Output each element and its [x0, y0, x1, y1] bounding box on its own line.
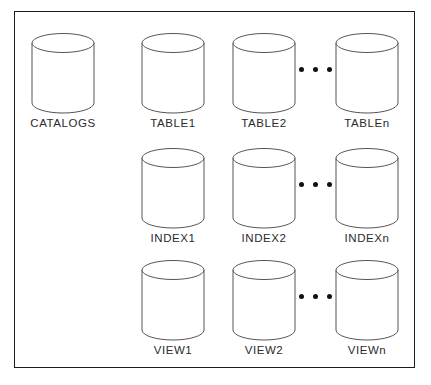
node-indexn[interactable]: INDEXn	[335, 148, 399, 228]
node-label: TABLE2	[210, 117, 318, 129]
cylinder-icon	[335, 260, 399, 340]
cylinder-icon	[232, 260, 296, 340]
cylinder-icon	[141, 260, 205, 340]
node-label: INDEXn	[313, 232, 421, 244]
node-tablen[interactable]: TABLEn	[335, 33, 399, 113]
node-table2[interactable]: TABLE2	[232, 33, 296, 113]
ellipsis-dot	[327, 67, 332, 72]
cylinder-icon	[335, 33, 399, 113]
ellipsis-dot	[299, 67, 304, 72]
ellipsis-row-indexes	[293, 182, 337, 187]
node-label: VIEW2	[210, 344, 318, 356]
ellipsis-dot	[327, 294, 332, 299]
ellipsis-row-views	[293, 294, 337, 299]
ellipsis-dot	[313, 67, 318, 72]
cylinder-icon	[31, 33, 95, 113]
ellipsis-dot	[299, 182, 304, 187]
node-table1[interactable]: TABLE1	[141, 33, 205, 113]
cylinder-icon	[141, 33, 205, 113]
node-view2[interactable]: VIEW2	[232, 260, 296, 340]
cylinder-icon	[141, 148, 205, 228]
cylinder-icon	[335, 148, 399, 228]
node-label: TABLEn	[313, 117, 421, 129]
cylinder-icon	[232, 33, 296, 113]
ellipsis-dot	[313, 294, 318, 299]
node-label: CATALOGS	[9, 117, 117, 129]
database-objects-diagram: CATALOGS TABLE1 TABLE2	[0, 0, 431, 385]
node-view1[interactable]: VIEW1	[141, 260, 205, 340]
node-label: VIEWn	[313, 344, 421, 356]
node-viewn[interactable]: VIEWn	[335, 260, 399, 340]
cylinder-icon	[232, 148, 296, 228]
node-label: INDEX2	[210, 232, 318, 244]
ellipsis-dot	[299, 294, 304, 299]
node-index1[interactable]: INDEX1	[141, 148, 205, 228]
node-catalogs[interactable]: CATALOGS	[31, 33, 95, 113]
ellipsis-dot	[313, 182, 318, 187]
ellipsis-dot	[327, 182, 332, 187]
ellipsis-row-tables	[293, 67, 337, 72]
node-index2[interactable]: INDEX2	[232, 148, 296, 228]
